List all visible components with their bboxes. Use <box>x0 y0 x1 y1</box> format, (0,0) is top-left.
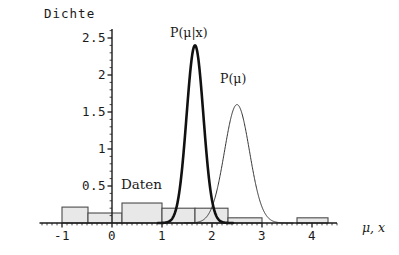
x-tick-label: 2 <box>197 230 227 243</box>
x-tick-label: 0 <box>97 230 127 243</box>
histogram-bar <box>195 208 228 223</box>
histogram-bar <box>62 207 88 223</box>
x-tick-label: 4 <box>297 230 327 243</box>
y-axis-title: Dichte <box>44 8 95 21</box>
x-tick-label: 3 <box>247 230 277 243</box>
posterior-curve-label: P(μ|x) <box>170 27 208 40</box>
histogram-bar <box>88 213 122 223</box>
data-histogram-label: Daten <box>121 178 162 192</box>
histogram-bar <box>297 218 328 223</box>
x-axis-title: μ, x <box>362 222 385 235</box>
y-tick-label: 1 <box>60 143 106 156</box>
y-tick-label: 2 <box>60 69 106 82</box>
x-tick-label: -1 <box>47 230 77 243</box>
density-plot-figure: Dichte μ, x 0.511.522.5 -101234 P(μ|x) P… <box>0 0 399 255</box>
prior-curve-label: P(μ) <box>220 73 246 86</box>
x-tick-label: 1 <box>147 230 177 243</box>
histogram-bar <box>162 208 195 223</box>
histogram-bar <box>122 203 162 223</box>
y-tick-label: 1.5 <box>60 106 106 119</box>
prior-curve <box>185 105 294 223</box>
histogram-group <box>62 203 328 223</box>
y-tick-label: 2.5 <box>60 32 106 45</box>
y-tick-label: 0.5 <box>60 180 106 193</box>
